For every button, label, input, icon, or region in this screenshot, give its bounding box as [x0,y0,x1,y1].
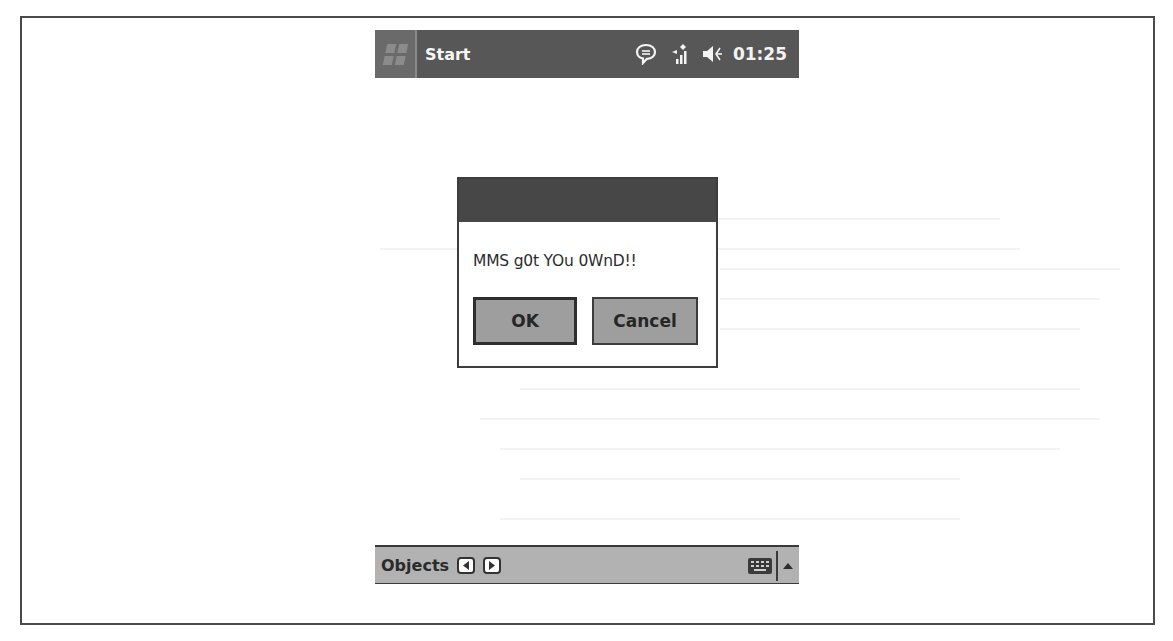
objects-menu[interactable]: Objects [381,556,449,575]
next-button[interactable] [483,557,501,574]
system-tray: 01:25 [635,30,799,78]
up-triangle-icon[interactable] [783,563,793,569]
message-bubble-icon[interactable] [635,43,657,65]
windows-flag-icon [375,30,417,78]
dialog-titlebar [459,179,716,222]
dialog-message: MMS g0t YOu 0WnD!! [473,252,637,270]
alert-dialog: MMS g0t YOu 0WnD!! OK Cancel [457,177,718,368]
input-panel-controls [748,547,793,584]
separator [776,551,778,581]
left-arrow-icon [462,561,470,570]
taskbar: Start 01:25 [375,30,799,78]
keyboard-icon[interactable] [748,558,772,574]
signal-antenna-icon[interactable] [669,43,689,65]
right-arrow-icon [488,561,496,570]
ok-button[interactable]: OK [473,297,577,345]
bottom-menu-bar: Objects [375,545,799,584]
start-label: Start [425,45,471,64]
start-button[interactable]: Start [375,30,500,78]
cancel-button[interactable]: Cancel [592,297,698,345]
clock[interactable]: 01:25 [733,44,787,64]
speaker-volume-icon[interactable] [701,44,723,64]
previous-button[interactable] [457,557,475,574]
